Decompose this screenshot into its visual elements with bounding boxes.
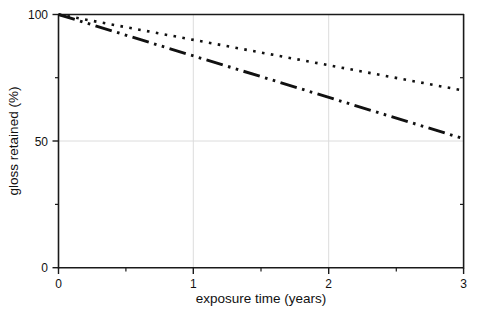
y-axis-title: gloss retained (%): [6, 87, 21, 196]
x-tick-labels: 0 1 2 3: [55, 277, 467, 291]
x-tick-label-1: 1: [190, 277, 197, 291]
chart-container: 0 1 2 3 0 50 100 exposure time (years) g…: [0, 0, 482, 311]
y-tick-label-100: 100: [28, 8, 48, 22]
x-axis-title: exposure time (years): [196, 291, 327, 306]
x-tick-label-3: 3: [460, 277, 467, 291]
x-tick-label-0: 0: [55, 277, 62, 291]
x-tick-label-2: 2: [325, 277, 332, 291]
x-axis-minor-ticks: [126, 268, 396, 272]
y-tick-label-0: 0: [41, 261, 48, 275]
y-axis-major-ticks: [53, 15, 59, 268]
y-tick-labels: 0 50 100: [28, 8, 48, 275]
gloss-retention-line-chart: 0 1 2 3 0 50 100 exposure time (years) g…: [0, 0, 482, 311]
y-tick-label-50: 50: [35, 135, 49, 149]
